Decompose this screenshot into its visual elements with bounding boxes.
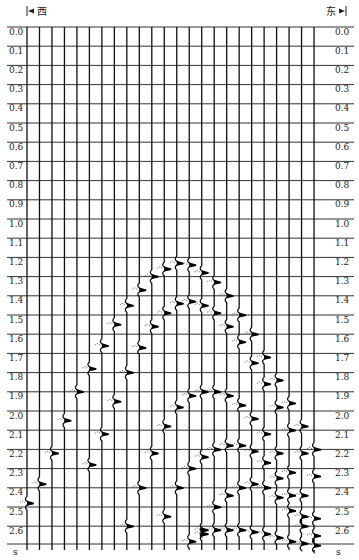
time-label-left: 1.0 [9,219,24,229]
wavelet-noise [220,294,225,295]
wavelet-peak [277,535,284,540]
time-label-left: 1.2 [9,257,23,267]
wavelet-peak [264,485,271,490]
wavelet-peak [177,301,184,306]
wavelet-noise [57,419,62,420]
wavelet-peak [252,529,259,534]
time-label-left: 2.1 [9,430,23,440]
time-label-right: 2.2 [335,449,349,459]
wavelet-noise [270,405,275,406]
wavelet-peak [277,378,284,383]
direction-header: 西 东 [27,5,346,17]
wavelet-noise [220,394,225,395]
wavelet-noise [295,424,300,425]
seismic-section: 西 东 0.00.00.10.10.20.20.30.30.40.40.50.5… [0,0,359,560]
trace-line [275,27,278,550]
wavelet-peak [289,508,296,513]
time-label-right: 2.3 [335,468,350,478]
wavelet-peak [289,401,296,406]
wavelet-noise [120,303,125,304]
wavelet-peak [164,514,171,519]
wavelet-noise [82,463,87,464]
wavelet-noise [107,399,112,400]
time-label-left: 0.6 [9,142,24,152]
wavelet-noise [282,493,287,494]
trace-line [125,27,128,550]
wavelet-noise [182,540,187,541]
trace-line [250,27,253,550]
wavelet-noise [120,524,125,525]
wavelet-noise [245,482,250,483]
wavelet-noise [282,509,287,510]
wavelet-noise [207,505,212,506]
west-label: 西 [37,6,47,17]
time-label-left: 0.4 [9,103,24,113]
trace-line [100,27,103,550]
time-label-right: 1.8 [335,372,350,382]
wavelet-peak [239,403,246,408]
wavelet-peak [264,355,271,360]
time-label-right: 2.6 [335,526,350,536]
wavelet-noise [157,267,162,268]
time-label-left: 1.3 [9,276,24,286]
wavelet-noise [195,455,200,456]
wavelet-peak [264,382,271,387]
wavelet-noise [170,301,175,302]
wavelet-peak [302,524,309,529]
wavelet-peak [314,447,321,452]
trace-line [88,27,91,550]
time-label-left: 2.2 [9,449,23,459]
wavelet-peak [289,539,296,544]
time-label-right: 1.5 [335,315,350,325]
time-label-right: 0.4 [335,103,350,113]
time-label-right: 0.9 [335,199,350,209]
wavelet-peak [214,528,221,533]
trace-line [300,27,303,550]
trace-line [313,27,316,552]
wavelet-noise [270,495,275,496]
wavelet-noise [270,536,275,537]
wavelet-noise [145,325,150,326]
wavelet-noise [207,447,212,448]
time-label-right: 1.3 [335,276,350,286]
wavelet-peak [189,299,196,304]
wavelet-noise [270,476,275,477]
wavelet-noise [232,486,237,487]
wavelet-noise [82,367,87,368]
wavelet-noise [182,394,187,395]
wavelet-noise [232,313,237,314]
wavelet-peak [202,531,209,536]
wavelet-noise [145,451,150,452]
wavelet-peak [189,539,196,544]
wavelet-noise [295,524,300,525]
wavelet-noise [245,361,250,362]
trace-line [75,27,78,550]
trace-lines [26,27,316,552]
unit-label-right: s [336,547,341,557]
trace-line [38,27,41,550]
wavelet-noise [307,447,312,448]
time-label-right: 0.8 [335,180,350,190]
time-label-left: 2.0 [9,411,24,421]
trace-line [188,27,191,550]
wavelet-peak [277,495,284,500]
time-label-left: 2.4 [9,487,24,497]
wavelet-peak [264,460,271,465]
trace-line [150,27,153,550]
wavelet-peak [227,443,234,448]
wavelet-noise [195,532,200,533]
wavelet-peak [314,533,321,538]
wavelet-peak [202,389,209,394]
time-label-right: 2.1 [335,430,349,440]
wavelet-peak [239,485,246,490]
wavelet-peak [64,418,71,423]
time-label-right: 0.3 [335,84,350,94]
wavelet-peak [177,485,184,490]
wavelet-peak [302,424,309,429]
wavelet-noise [145,275,150,276]
wavelet-noise [270,378,275,379]
wavelet-peak [177,405,184,410]
wavelet-noise [232,340,237,341]
time-label-left: 0.0 [9,27,24,37]
wavelet-peak [127,524,134,529]
